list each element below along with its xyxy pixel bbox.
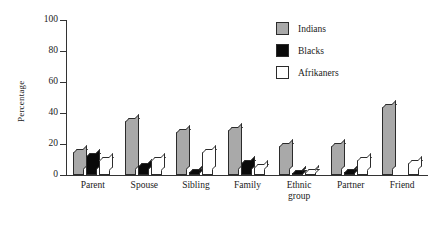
bar — [176, 132, 187, 175]
bar — [125, 121, 136, 175]
bar-side-face — [418, 156, 422, 170]
legend-swatch — [276, 44, 289, 57]
bar — [357, 160, 368, 176]
bar — [254, 167, 265, 175]
legend-item: Blacks — [276, 44, 339, 57]
y-tick: 40 — [0, 113, 58, 114]
bar-side-face — [289, 139, 293, 170]
x-axis-label: Friend — [367, 180, 437, 191]
bar — [151, 160, 162, 176]
y-tick: 100 — [0, 20, 58, 21]
y-tick-label: 60 — [10, 77, 58, 87]
bar-top-face — [305, 169, 320, 173]
bar-side-face — [161, 153, 165, 171]
bar — [202, 152, 213, 175]
y-tick-label: 40 — [10, 108, 58, 118]
bar — [241, 163, 252, 175]
bar-chart: Percentage 100806040200 ParentSpouseSibl… — [0, 0, 440, 225]
legend-swatch — [276, 66, 289, 79]
bar — [228, 130, 239, 175]
bar — [73, 152, 84, 175]
bar — [305, 172, 316, 175]
y-tick: 0 — [0, 175, 58, 176]
y-tick-label: 20 — [10, 139, 58, 149]
legend-item: Indians — [276, 22, 339, 35]
bar — [86, 156, 97, 175]
y-tick-label: 100 — [10, 15, 58, 25]
bar-side-face — [109, 153, 113, 171]
y-tick: 80 — [0, 51, 58, 52]
bar — [99, 160, 110, 176]
y-tick: 20 — [0, 144, 58, 145]
bar-side-face — [341, 139, 345, 170]
bar-side-face — [135, 114, 139, 170]
y-tick: 60 — [0, 82, 58, 83]
x-axis-label-line: Friend — [367, 180, 437, 191]
bar — [138, 166, 149, 175]
bar — [331, 146, 342, 175]
bar-side-face — [212, 145, 216, 170]
bar-side-face — [392, 100, 396, 170]
bar-group — [222, 20, 274, 175]
bar-side-face — [186, 125, 190, 170]
bar-group — [170, 20, 222, 175]
legend-label: Indians — [298, 24, 326, 34]
x-axis-label-line: group — [264, 191, 334, 202]
bar-group — [376, 20, 428, 175]
legend-label: Blacks — [298, 46, 324, 56]
bar-side-face — [264, 160, 268, 170]
y-tick-label: 80 — [10, 46, 58, 56]
legend-label: Afrikaners — [298, 68, 339, 78]
legend-item: Afrikaners — [276, 66, 339, 79]
bar — [292, 173, 303, 175]
bar — [408, 163, 419, 175]
bar — [189, 172, 200, 175]
bar-group — [119, 20, 171, 175]
bar — [344, 172, 355, 175]
legend: IndiansBlacksAfrikaners — [276, 22, 339, 88]
bar — [382, 107, 393, 175]
plot-area — [67, 20, 428, 175]
x-axis-line — [66, 175, 428, 176]
bar — [279, 146, 290, 175]
y-tick-label: 0 — [10, 170, 58, 180]
bar-group — [67, 20, 119, 175]
bar-side-face — [367, 153, 371, 171]
legend-swatch — [276, 22, 289, 35]
